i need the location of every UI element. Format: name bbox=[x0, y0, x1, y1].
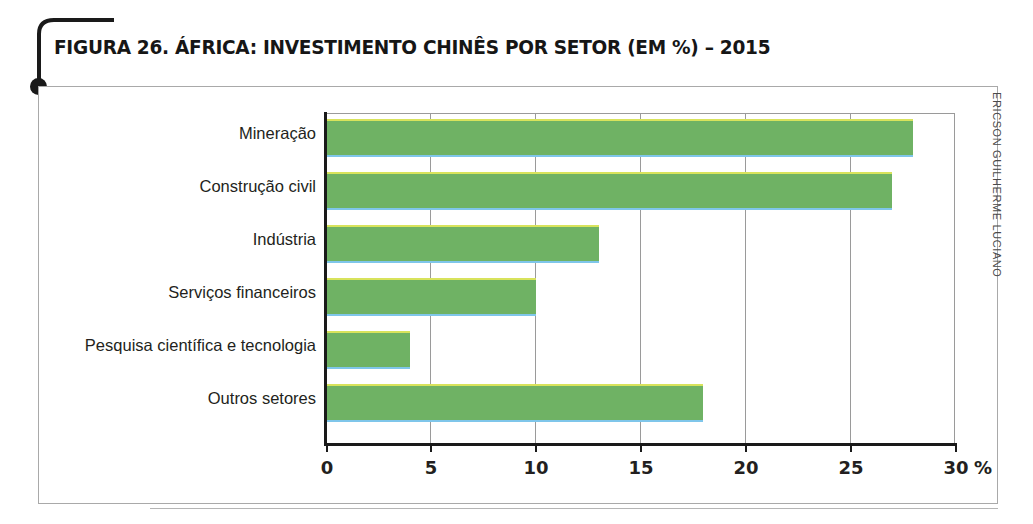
gridline-25 bbox=[850, 113, 851, 443]
category-label-servicos: Serviços financeiros bbox=[16, 283, 316, 302]
xtick-5 bbox=[430, 443, 432, 452]
x-axis-unit-label: % bbox=[974, 457, 992, 478]
bar-construcao[interactable] bbox=[326, 172, 892, 210]
category-label-industria: Indústria bbox=[16, 230, 316, 249]
y-axis-line bbox=[324, 112, 327, 444]
caption-divider bbox=[150, 508, 998, 509]
xtick-0 bbox=[326, 443, 328, 452]
xtick-label-20: 20 bbox=[733, 457, 758, 478]
xtick-30 bbox=[955, 443, 957, 452]
figure-title: FIGURA 26. ÁFRICA: INVESTIMENTO CHINÊS P… bbox=[54, 36, 770, 59]
xtick-25 bbox=[850, 443, 852, 452]
xtick-15 bbox=[640, 443, 642, 452]
bar-outros[interactable] bbox=[326, 384, 703, 422]
category-label-pesquisa: Pesquisa científica e tecnologia bbox=[16, 336, 316, 355]
xtick-label-30: 30 bbox=[943, 457, 968, 478]
xtick-10 bbox=[535, 443, 537, 452]
xtick-label-0: 0 bbox=[321, 457, 334, 478]
plot-area: 0 5 10 15 20 25 30 % bbox=[326, 113, 955, 443]
category-label-construcao: Construção civil bbox=[16, 177, 316, 196]
category-axis-labels: Mineração Construção civil Indústria Ser… bbox=[10, 113, 316, 443]
xtick-label-25: 25 bbox=[838, 457, 863, 478]
xtick-label-15: 15 bbox=[628, 457, 653, 478]
bar-servicos[interactable] bbox=[326, 278, 536, 316]
credit-text: ERICSON GUILHERME LUCIANO bbox=[991, 92, 1003, 278]
gridline-20 bbox=[745, 113, 746, 443]
xtick-label-10: 10 bbox=[523, 457, 548, 478]
bar-pesquisa[interactable] bbox=[326, 331, 410, 369]
category-label-outros: Outros setores bbox=[16, 389, 316, 408]
bar-mineracao[interactable] bbox=[326, 119, 913, 157]
bar-industria[interactable] bbox=[326, 225, 599, 263]
xtick-label-5: 5 bbox=[425, 457, 438, 478]
xtick-20 bbox=[745, 443, 747, 452]
category-label-mineracao: Mineração bbox=[16, 124, 316, 143]
